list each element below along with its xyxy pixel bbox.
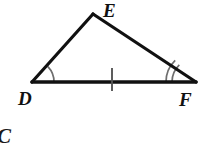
geometry-figure-canvas: E D F C — [0, 0, 205, 146]
vertex-label-e: E — [102, 0, 116, 21]
edge-de — [32, 14, 93, 82]
edge-ef — [93, 14, 196, 82]
angle-arc-d-group — [48, 67, 54, 82]
stray-label-c: C — [0, 124, 12, 146]
single-arc-angle-d — [48, 67, 54, 82]
triangle-def-diagram: E D F C — [0, 0, 205, 146]
vertex-label-f: F — [178, 89, 192, 110]
vertex-label-d: D — [17, 88, 32, 109]
